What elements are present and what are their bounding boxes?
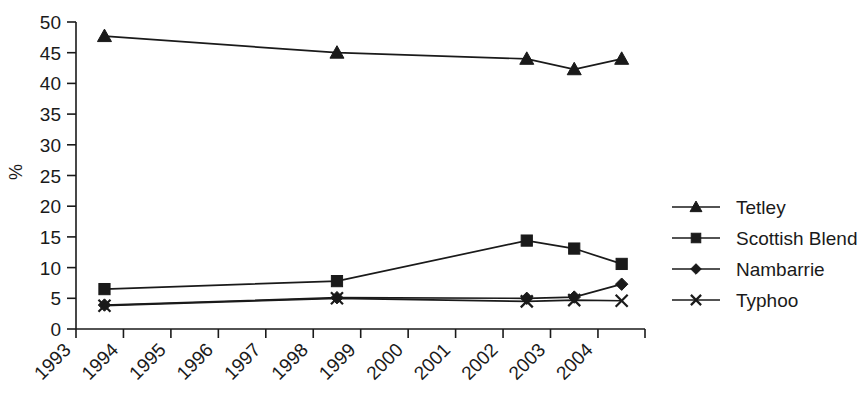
data-point-square (521, 235, 532, 246)
legend-label: Nambarrie (736, 259, 825, 280)
x-tick-label: 2000 (362, 339, 407, 384)
series-polyline (104, 284, 621, 305)
data-point-square (569, 243, 580, 254)
data-point-diamond (615, 278, 627, 290)
x-tick-label: 1995 (125, 339, 170, 384)
x-tick-label: 1993 (30, 339, 75, 384)
y-tick-label: 5 (50, 288, 61, 309)
chart-canvas: 05101520253035404550 1993199419951996199… (0, 0, 860, 408)
y-tick-label: 50 (40, 12, 61, 33)
legend-label: Scottish Blend (736, 228, 857, 249)
series-nambarrie (98, 278, 628, 311)
x-tick-label: 1996 (172, 339, 217, 384)
data-point-triangle (97, 29, 111, 41)
x-tick-label: 2003 (505, 339, 550, 384)
data-point-square (616, 258, 627, 269)
legend-item-tetley[interactable]: Tetley (672, 197, 786, 218)
data-point-square (99, 283, 110, 294)
x-tick-label: 1994 (78, 339, 123, 384)
legend-item-scottish-blend[interactable]: Scottish Blend (672, 228, 857, 249)
data-point-square (691, 233, 701, 243)
x-tick-label: 1997 (220, 339, 265, 384)
series-polyline (104, 36, 621, 69)
series-polyline (104, 241, 621, 290)
y-axis: 05101520253035404550 (40, 12, 76, 340)
x-tick-label: 1999 (315, 339, 360, 384)
legend-item-nambarrie[interactable]: Nambarrie (672, 259, 825, 280)
series-scottish-blend (99, 235, 627, 295)
x-tick-label: 2001 (410, 339, 455, 384)
legend-label: Tetley (736, 197, 786, 218)
y-tick-label: 45 (40, 43, 61, 64)
x-tick-label: 2002 (457, 339, 502, 384)
y-tick-label: 30 (40, 135, 61, 156)
y-tick-label: 0 (50, 319, 61, 340)
y-tick-label: 10 (40, 258, 61, 279)
y-tick-label: 25 (40, 166, 61, 187)
series-plot-area (97, 29, 628, 312)
data-point-triangle (615, 52, 629, 64)
series-tetley (97, 29, 628, 75)
data-point-square (331, 276, 342, 287)
y-tick-label: 40 (40, 73, 61, 94)
x-axis: 1993199419951996199719981999200020012002… (30, 329, 645, 384)
data-point-diamond (691, 264, 702, 275)
x-tick-label: 1998 (267, 339, 312, 384)
y-tick-label: 15 (40, 227, 61, 248)
y-tick-label: 20 (40, 196, 61, 217)
legend-item-typhoo[interactable]: Typhoo (672, 290, 798, 311)
line-chart: 05101520253035404550 1993199419951996199… (0, 0, 860, 408)
x-tick-label: 2004 (552, 339, 597, 384)
legend-label: Typhoo (736, 290, 798, 311)
chart-legend: TetleyScottish BlendNambarrieTyphoo (672, 197, 857, 311)
y-tick-label: 35 (40, 104, 61, 125)
y-axis-title: % (6, 164, 26, 180)
